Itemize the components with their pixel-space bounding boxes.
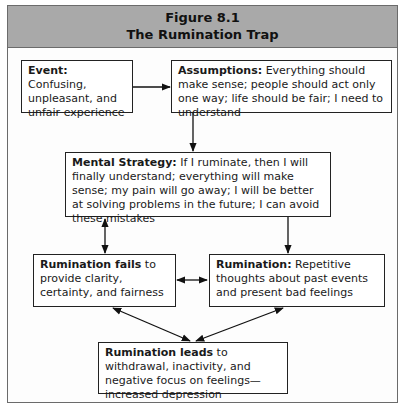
box-rumination-leads-label: Rumination leads <box>105 346 213 359</box>
box-rumination: Rumination: Repetitive thoughts about pa… <box>209 254 385 307</box>
box-rumination-leads: Rumination leads to withdrawal, inactivi… <box>98 342 288 394</box>
box-mental-strategy-label: Mental Strategy: <box>72 156 177 169</box>
arrow-rumination-leads <box>196 308 283 341</box>
box-rumination-label: Rumination: <box>216 258 292 271</box>
box-rumination-fails-label: Rumination fails <box>40 258 141 271</box>
box-mental-strategy: Mental Strategy: If I ruminate, then I w… <box>65 152 331 217</box>
box-event-text: Confusing, unpleasant, and unfair experi… <box>28 78 125 119</box>
box-assumptions: Assumptions: Everything should make sens… <box>171 60 392 113</box>
box-assumptions-label: Assumptions: <box>178 64 262 77</box>
box-rumination-fails: Rumination fails to provide clarity, cer… <box>33 254 176 307</box>
box-event-label: Event: <box>28 64 68 77</box>
arrow-fails-leads <box>113 308 190 341</box>
box-event: Event: Confusing, unpleasant, and unfair… <box>21 60 133 113</box>
